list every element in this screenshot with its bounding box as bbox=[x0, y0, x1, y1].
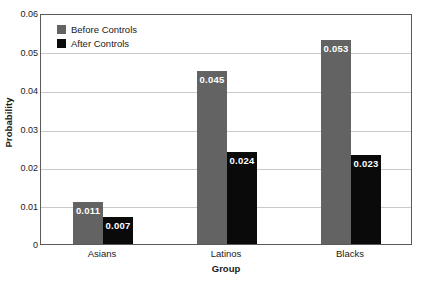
y-axis-tick-labels: 00.010.020.030.040.050.06 bbox=[14, 0, 38, 285]
plot-area: 0.0110.0070.0450.0240.0530.023 Before Co… bbox=[40, 14, 412, 245]
chart-legend: Before ControlsAfter Controls bbox=[57, 23, 137, 51]
bar-chart-figure: Probability 00.010.020.030.040.050.06 0.… bbox=[0, 0, 424, 285]
bar: 0.053 bbox=[321, 40, 351, 244]
y-tick-label: 0 bbox=[33, 240, 38, 250]
bar-value-label: 0.023 bbox=[351, 158, 381, 169]
x-tick-label: Asians bbox=[88, 248, 117, 259]
y-tick-label: 0.06 bbox=[20, 9, 38, 19]
legend-item: After Controls bbox=[57, 37, 137, 50]
y-tick-label: 0.04 bbox=[20, 86, 38, 96]
bar-value-label: 0.053 bbox=[321, 43, 351, 54]
y-tick-label: 0.05 bbox=[20, 48, 38, 58]
y-tick-label: 0.01 bbox=[20, 202, 38, 212]
bar-value-label: 0.011 bbox=[73, 205, 103, 216]
bar: 0.024 bbox=[227, 152, 257, 244]
bar: 0.045 bbox=[197, 71, 227, 244]
legend-item: Before Controls bbox=[57, 23, 137, 36]
x-tick-label: Blacks bbox=[336, 248, 364, 259]
bar: 0.007 bbox=[103, 217, 133, 244]
x-axis-title: Group bbox=[40, 263, 412, 274]
legend-label: Before Controls bbox=[71, 24, 137, 35]
legend-swatch-icon bbox=[57, 25, 66, 34]
bar-value-label: 0.045 bbox=[197, 74, 227, 85]
y-axis-title-label: Probability bbox=[3, 97, 14, 147]
x-axis-tick-labels: AsiansLatinosBlacks bbox=[40, 248, 412, 264]
legend-swatch-icon bbox=[57, 39, 66, 48]
legend-label: After Controls bbox=[71, 38, 129, 49]
bar-value-label: 0.024 bbox=[227, 155, 257, 166]
bar: 0.011 bbox=[73, 202, 103, 244]
bar-value-label: 0.007 bbox=[103, 220, 133, 231]
bar: 0.023 bbox=[351, 155, 381, 244]
y-tick-label: 0.03 bbox=[20, 125, 38, 135]
y-tick-label: 0.02 bbox=[20, 163, 38, 173]
x-tick-label: Latinos bbox=[211, 248, 242, 259]
